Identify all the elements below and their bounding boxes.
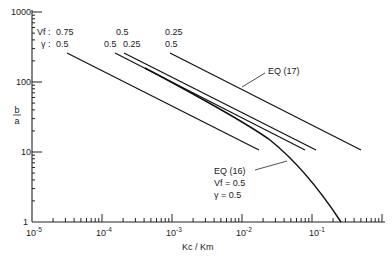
x-label-1e-5: 10-5 bbox=[26, 226, 42, 238]
y-label-1000: 1000 bbox=[11, 7, 31, 17]
y-label-10: 10 bbox=[21, 147, 31, 157]
eq16-vf: Vf = 0.5 bbox=[214, 178, 245, 188]
gamma-4: 0.5 bbox=[165, 39, 178, 49]
gamma-2: 0.5 bbox=[104, 39, 117, 49]
vf-1: 0.75 bbox=[56, 27, 74, 37]
y-label-100: 100 bbox=[16, 77, 31, 87]
svg-text:b: b bbox=[14, 105, 19, 115]
x-label-1e-4: 10-4 bbox=[96, 226, 112, 238]
x-label-1e-3: 10-3 bbox=[166, 226, 182, 238]
gamma-3: 0.25 bbox=[123, 39, 141, 49]
eq16-label: EQ (16) bbox=[214, 166, 246, 176]
annotations: EQ (17) EQ (16) Vf = 0.5 γ = 0.5 bbox=[214, 66, 300, 200]
axes bbox=[32, 10, 385, 222]
curve-eq16 bbox=[145, 68, 341, 222]
gamma-1: 0.5 bbox=[56, 39, 69, 49]
y-label-1: 1 bbox=[23, 217, 28, 227]
gamma-header: γ : bbox=[41, 39, 51, 49]
parameter-labels: Vf : γ : 0.75 0.5 0.5 0.5 0.25 0.25 0.5 bbox=[37, 27, 183, 49]
line-eq17-vf025-g05 bbox=[170, 53, 361, 150]
vf-header: Vf : bbox=[37, 27, 51, 37]
svg-text:a: a bbox=[14, 116, 19, 126]
vf-2: 0.5 bbox=[116, 27, 129, 37]
x-tick-labels: 10-5 10-4 10-3 10-2 10-1 bbox=[26, 226, 325, 238]
y-axis-title: b a bbox=[13, 105, 21, 126]
x-label-1e-2: 10-2 bbox=[236, 226, 252, 238]
line-vf075-g05 bbox=[67, 53, 259, 150]
x-ticks bbox=[53, 214, 382, 222]
vf-4: 0.25 bbox=[165, 27, 183, 37]
eq16-leader bbox=[255, 161, 287, 170]
eq17-label: EQ (17) bbox=[268, 66, 300, 76]
x-label-1e-1: 10-1 bbox=[309, 226, 325, 238]
eq16-gamma: γ = 0.5 bbox=[214, 190, 241, 200]
log-log-chart: 1000 100 10 1 b a 10-5 10-4 10-3 10-2 10… bbox=[0, 0, 392, 258]
x-axis-title: Kc / Km bbox=[182, 242, 214, 252]
eq17-leader bbox=[242, 73, 265, 87]
